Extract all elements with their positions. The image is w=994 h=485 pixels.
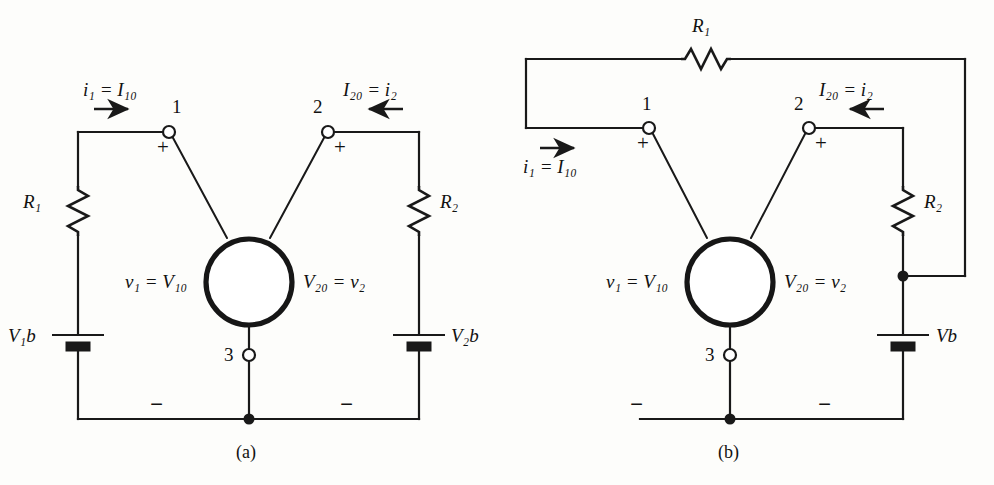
wire-node1-to-device-b [652, 132, 707, 238]
battery-vb-negative-plate-b [891, 342, 915, 351]
resistor-r2-a [409, 186, 429, 236]
plus-sign-left-a: + [157, 137, 169, 158]
current-label-left-a: i₁ = I₁₀ [83, 80, 137, 99]
battery-v1b-negative-plate-a [66, 342, 90, 351]
wire-node1-to-device-a [172, 136, 227, 238]
wire-node2-to-device-b [751, 132, 806, 238]
figure-container: i₁ = I₁₀ I₂₀ = i₂ 1 2 + + R₁ R₂ v₁ = V₁₀… [0, 0, 994, 485]
panel-b-circuit [526, 49, 965, 425]
resistor-r1-label-b: R₁ [692, 16, 710, 35]
voltage-label-left-a: v₁ = V₁₀ [125, 272, 187, 291]
junction-dot-r2-b [898, 271, 909, 282]
voltage-label-right-a: V₂₀ = v₂ [303, 272, 365, 291]
resistor-r1-label-a: R₁ [23, 192, 41, 211]
voltage-label-right-b: V₂₀ = v₂ [784, 272, 846, 291]
node-1-label-b: 1 [642, 94, 652, 113]
minus-sign-right-a: − [340, 393, 353, 416]
battery-v2b-negative-plate-a [407, 342, 431, 351]
resistor-r2-b [893, 186, 913, 236]
node-1-label-a: 1 [172, 97, 182, 116]
plus-sign-left-b: + [637, 133, 649, 154]
node-3-label-b: 3 [705, 345, 715, 364]
node-2-terminal-b [803, 122, 815, 134]
battery-v1b-label-a: V₁b [8, 326, 36, 345]
current-label-right-a: I₂₀ = i₂ [343, 80, 397, 99]
resistor-r2-label-b: R₂ [924, 192, 942, 211]
caption-a: (a) [236, 443, 256, 461]
node-3-label-a: 3 [224, 345, 234, 364]
plus-sign-right-a: + [334, 137, 346, 158]
current-label-left-b: i₁ = I₁₀ [523, 157, 577, 176]
junction-dot-ground-a [244, 414, 255, 425]
panel-a-circuit [52, 109, 445, 425]
resistor-r2-label-a: R₂ [440, 192, 458, 211]
device-circle-a [206, 239, 292, 325]
device-circle-b [687, 239, 773, 325]
battery-v2b-label-a: V₂b [451, 326, 479, 345]
node-2-label-a: 2 [313, 97, 323, 116]
minus-sign-right-b: − [818, 393, 831, 416]
battery-vb-label-b: Vb [936, 326, 957, 345]
node-3-terminal-a [243, 349, 255, 361]
resistor-r1-b [681, 49, 731, 69]
wire-node2-to-device-a [270, 136, 325, 238]
caption-b: (b) [718, 443, 739, 461]
minus-sign-left-a: − [150, 393, 163, 416]
resistor-r1-a [68, 186, 88, 236]
node-2-label-b: 2 [794, 94, 804, 113]
node-3-terminal-b [724, 349, 736, 361]
node-2-terminal-a [322, 126, 334, 138]
plus-sign-right-b: + [815, 133, 827, 154]
current-label-right-b: I₂₀ = i₂ [819, 80, 873, 99]
minus-sign-left-b: − [630, 393, 643, 416]
junction-dot-ground-b [725, 414, 736, 425]
voltage-label-left-b: v₁ = V₁₀ [606, 272, 668, 291]
